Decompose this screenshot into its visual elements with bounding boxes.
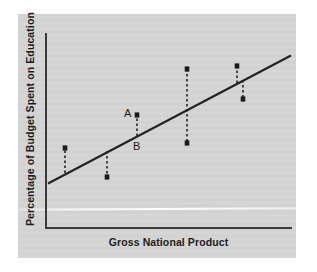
regression-residuals-figure: Percentage of Budget Spent on Education … — [0, 0, 317, 272]
x-axis-label: Gross National Product — [45, 236, 292, 248]
x-axis — [45, 227, 292, 229]
y-axis — [45, 33, 47, 229]
point-label-a: A — [124, 107, 131, 119]
chart-panel — [18, 14, 296, 258]
point-label-b: B — [133, 140, 140, 152]
y-axis-label: Percentage of Budget Spent on Education — [24, 26, 36, 226]
